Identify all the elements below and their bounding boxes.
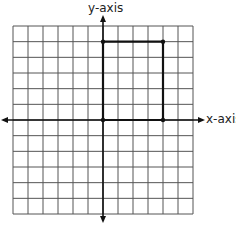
vertex-point bbox=[101, 39, 105, 43]
vertex-point bbox=[101, 118, 105, 122]
y-axis-down-arrow-icon bbox=[100, 216, 106, 223]
vertex-point bbox=[161, 39, 165, 43]
x-axis-right-arrow-icon bbox=[198, 117, 205, 123]
x-axis-label: x-axis bbox=[206, 113, 236, 125]
vertex-point bbox=[161, 118, 165, 122]
coordinate-plane bbox=[0, 0, 236, 225]
x-axis-left-arrow-icon bbox=[1, 117, 8, 123]
y-axis-up-arrow-icon bbox=[100, 15, 106, 22]
y-axis-label: y-axis bbox=[88, 2, 123, 14]
